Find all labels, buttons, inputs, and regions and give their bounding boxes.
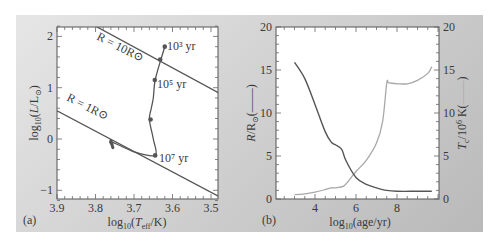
panel-a-ylabel: log10(L/L⊙) bbox=[27, 85, 43, 140]
label-10-7-yr: 10⁷ yr bbox=[159, 151, 188, 165]
svg-text:15: 15 bbox=[443, 63, 455, 77]
panel-a-ytick-labels: 2 1 0 −1 bbox=[40, 29, 53, 197]
panel-b-ylabel-left: R/R⊙(——) bbox=[244, 84, 260, 142]
svg-text:3.9: 3.9 bbox=[50, 201, 65, 215]
svg-text:20: 20 bbox=[443, 20, 455, 34]
svg-text:0: 0 bbox=[266, 192, 272, 206]
label-10-5-yr: 10⁵ yr bbox=[157, 77, 186, 91]
svg-text:5: 5 bbox=[443, 149, 449, 163]
svg-text:6: 6 bbox=[353, 201, 359, 215]
svg-text:0: 0 bbox=[443, 192, 449, 206]
panel-a-xlabel: log10(Teff/K) bbox=[108, 215, 167, 231]
panel-b: 4 6 8 20 15 10 5 0 20 15 10 5 0 log10(ag… bbox=[244, 20, 471, 231]
panel-b-ytick-labels-right: 20 15 10 5 0 bbox=[443, 20, 455, 206]
svg-text:10: 10 bbox=[443, 106, 455, 120]
svg-text:3.7: 3.7 bbox=[127, 201, 142, 215]
svg-text:4: 4 bbox=[312, 201, 318, 215]
label-10-3-yr: 10³ yr bbox=[167, 39, 196, 53]
figure: R = 10R⊙ R = 1R⊙ 10³ yr 10⁵ yr 10⁷ yr 3.… bbox=[0, 0, 495, 242]
svg-text:3.5: 3.5 bbox=[204, 201, 219, 215]
svg-text:0: 0 bbox=[47, 132, 53, 146]
svg-text:3.8: 3.8 bbox=[88, 201, 103, 215]
svg-text:8: 8 bbox=[394, 201, 400, 215]
panel-b-xtick-labels: 4 6 8 bbox=[312, 201, 400, 215]
panel-a: R = 10R⊙ R = 1R⊙ 10³ yr 10⁵ yr 10⁷ yr 3.… bbox=[23, 26, 219, 231]
panel-b-ylabel-right: Tc/106 K(——) bbox=[455, 76, 471, 149]
panel-b-label: (b) bbox=[262, 213, 276, 227]
panel-b-plot-area bbox=[276, 27, 439, 199]
svg-text:2: 2 bbox=[47, 29, 53, 43]
panel-a-xtick-labels: 3.9 3.8 3.7 3.6 3.5 bbox=[50, 201, 219, 215]
panel-b-ytick-labels-left: 20 15 10 5 0 bbox=[260, 20, 272, 206]
panel-a-label: (a) bbox=[23, 213, 36, 227]
svg-text:20: 20 bbox=[260, 20, 272, 34]
svg-text:10: 10 bbox=[260, 106, 272, 120]
svg-text:3.6: 3.6 bbox=[165, 201, 180, 215]
svg-text:1: 1 bbox=[47, 81, 53, 95]
svg-text:−1: −1 bbox=[40, 183, 53, 197]
svg-text:15: 15 bbox=[260, 63, 272, 77]
svg-text:5: 5 bbox=[266, 149, 272, 163]
panel-b-xlabel: log10(age/yr) bbox=[329, 215, 390, 231]
